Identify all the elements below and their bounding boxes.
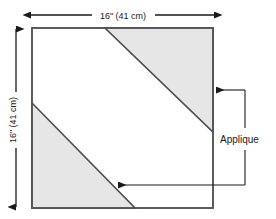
applique-callout-label: Applique (220, 134, 259, 145)
diagram-page: 16" (41 cm) 16" (41 cm) Applique (0, 0, 276, 219)
applique-block-diagram: 16" (41 cm) 16" (41 cm) Applique (0, 0, 276, 219)
top-dimension-label: 16" (41 cm) (100, 11, 146, 21)
left-dimension-label: 16" (41 cm) (8, 97, 18, 143)
